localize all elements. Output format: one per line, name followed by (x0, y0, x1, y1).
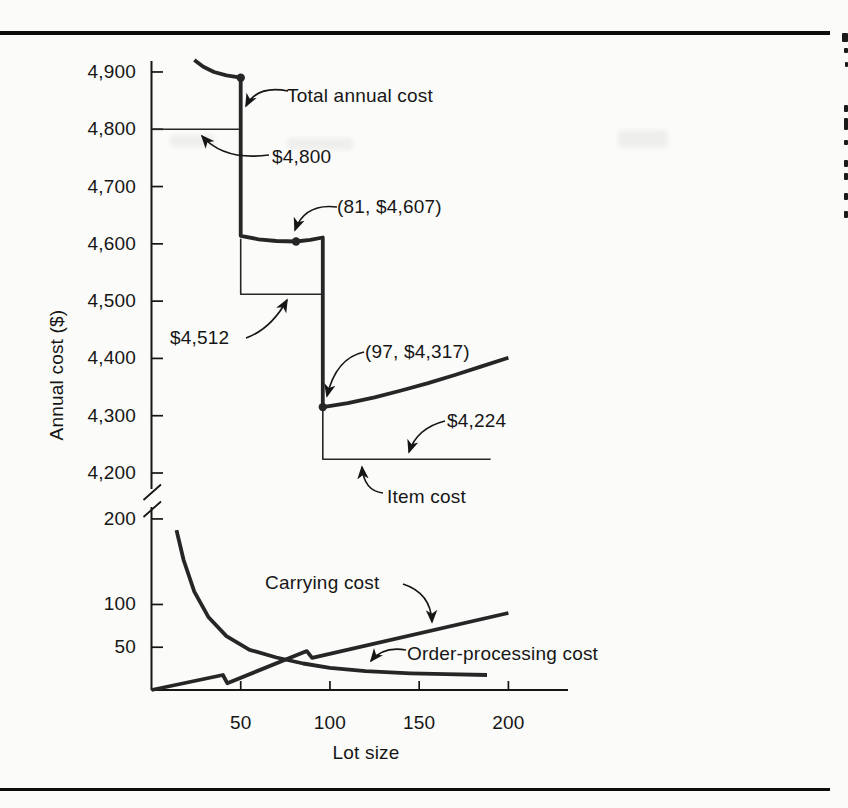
curve-item-cost (241, 239, 323, 295)
key-point-dot (292, 237, 300, 245)
y-tick-label-upper: 4,200 (66, 462, 136, 484)
y-tick-label-upper: 4,600 (66, 233, 136, 255)
x-tick-label: 100 (295, 712, 365, 734)
arrow-carrying-cost (403, 584, 432, 622)
x-tick-label: 200 (473, 712, 543, 734)
arrow-item-cost (362, 467, 383, 493)
clipped-text-fragment (842, 33, 848, 42)
arrow-point-97 (327, 352, 364, 396)
y-tick-label-upper: 4,700 (66, 176, 136, 198)
cost-chart-figure: Total annual cost $4,800 (81, $4,607) $4… (0, 0, 848, 808)
clipped-text-fragment (844, 48, 848, 53)
annotation-point-97-4317: (97, $4,317) (365, 341, 470, 363)
textbook-figure-page: Total annual cost $4,800 (81, $4,607) $4… (0, 0, 848, 808)
y-tick-label-lower: 200 (66, 508, 136, 530)
clipped-text-fragment (844, 211, 848, 218)
clipped-text-fragment (844, 173, 848, 180)
annotation-carrying-cost: Carrying cost (265, 572, 380, 594)
annotation-price-4512: $4,512 (170, 327, 229, 349)
annotation-price-4800: $4,800 (272, 146, 331, 168)
y-tick-label-lower: 100 (66, 593, 136, 615)
annotation-item-cost: Item cost (387, 486, 466, 508)
key-point-dot (319, 403, 327, 411)
x-tick-label: 50 (206, 712, 276, 734)
annotation-order-processing-cost: Order-processing cost (407, 643, 598, 665)
clipped-text-fragment (844, 105, 848, 112)
clipped-text-fragment (844, 118, 848, 130)
y-tick-label-upper: 4,400 (66, 347, 136, 369)
y-tick-label-upper: 4,800 (66, 118, 136, 140)
annotation-price-4224: $4,224 (447, 410, 506, 432)
annotation-total-annual-cost: Total annual cost (287, 85, 433, 107)
y-tick-label-lower: 50 (66, 636, 136, 658)
arrow-price-4800 (202, 136, 269, 156)
y-tick-label-upper: 4,500 (66, 290, 136, 312)
clipped-text-fragment (844, 160, 848, 167)
x-axis-title: Lot size (296, 742, 436, 764)
annotation-point-81-4607: (81, $4,607) (337, 196, 442, 218)
arrow-total-annual-cost (246, 90, 288, 106)
arrow-point-81 (295, 206, 337, 230)
arrow-price-4512 (246, 300, 287, 338)
x-tick-label: 150 (384, 712, 454, 734)
arrow-price-4224 (409, 421, 445, 452)
y-tick-label-upper: 4,900 (66, 61, 136, 83)
key-point-dot (237, 73, 245, 81)
arrow-order-processing (371, 649, 406, 661)
y-tick-label-upper: 4,300 (66, 405, 136, 427)
clipped-text-fragment (844, 140, 848, 145)
clipped-text-fragment (844, 193, 848, 200)
